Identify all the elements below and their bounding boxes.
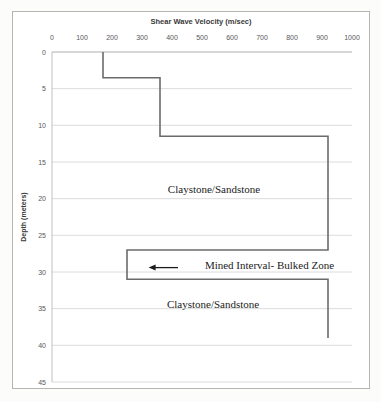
- y-tick-label-20: 20: [38, 195, 46, 202]
- x-tick-label-1000: 1000: [344, 34, 360, 41]
- annotation-label-0: Claystone/Sandstone: [168, 183, 260, 195]
- x-tick-label-400: 400: [166, 34, 178, 41]
- annotation-label-2: Claystone/Sandstone: [167, 298, 259, 310]
- y-tick-label-45: 45: [38, 379, 46, 386]
- x-tick-label-900: 900: [316, 34, 328, 41]
- y-tick-label-40: 40: [38, 342, 46, 349]
- grid-layer: [52, 52, 352, 382]
- shear-wave-velocity-chart: 01002003004005006007008009001000 0510152…: [12, 11, 370, 389]
- x-tick-labels: 01002003004005006007008009001000: [50, 34, 360, 41]
- annotation-layer: Claystone/SandstoneMined Interval- Bulke…: [149, 183, 335, 310]
- chart-title: Shear Wave Velocity (m/sec): [150, 17, 252, 26]
- x-tick-label-700: 700: [256, 34, 268, 41]
- x-tick-label-600: 600: [226, 34, 238, 41]
- y-tick-label-30: 30: [38, 269, 46, 276]
- left-arrow-icon: [149, 265, 156, 271]
- y-axis-title: Depth (meters): [20, 192, 28, 241]
- x-tick-label-100: 100: [76, 34, 88, 41]
- x-tick-label-300: 300: [136, 34, 148, 41]
- annotation-label-1: Mined Interval- Bulked Zone: [205, 259, 334, 271]
- x-tick-label-500: 500: [196, 34, 208, 41]
- y-tick-label-5: 5: [42, 85, 46, 92]
- y-tick-label-10: 10: [38, 122, 46, 129]
- y-tick-label-0: 0: [42, 49, 46, 56]
- x-tick-label-0: 0: [50, 34, 54, 41]
- y-tick-label-35: 35: [38, 305, 46, 312]
- y-tick-label-25: 25: [38, 232, 46, 239]
- y-tick-labels: 051015202530354045: [38, 49, 46, 386]
- velocity-profile-line: [103, 52, 328, 338]
- page-background: 01002003004005006007008009001000 0510152…: [0, 0, 381, 402]
- x-tick-label-200: 200: [106, 34, 118, 41]
- x-tick-label-800: 800: [286, 34, 298, 41]
- axis-layer: [52, 52, 352, 382]
- chart-canvas: 01002003004005006007008009001000 0510152…: [13, 12, 369, 388]
- data-series-layer: [103, 52, 328, 338]
- y-tick-label-15: 15: [38, 159, 46, 166]
